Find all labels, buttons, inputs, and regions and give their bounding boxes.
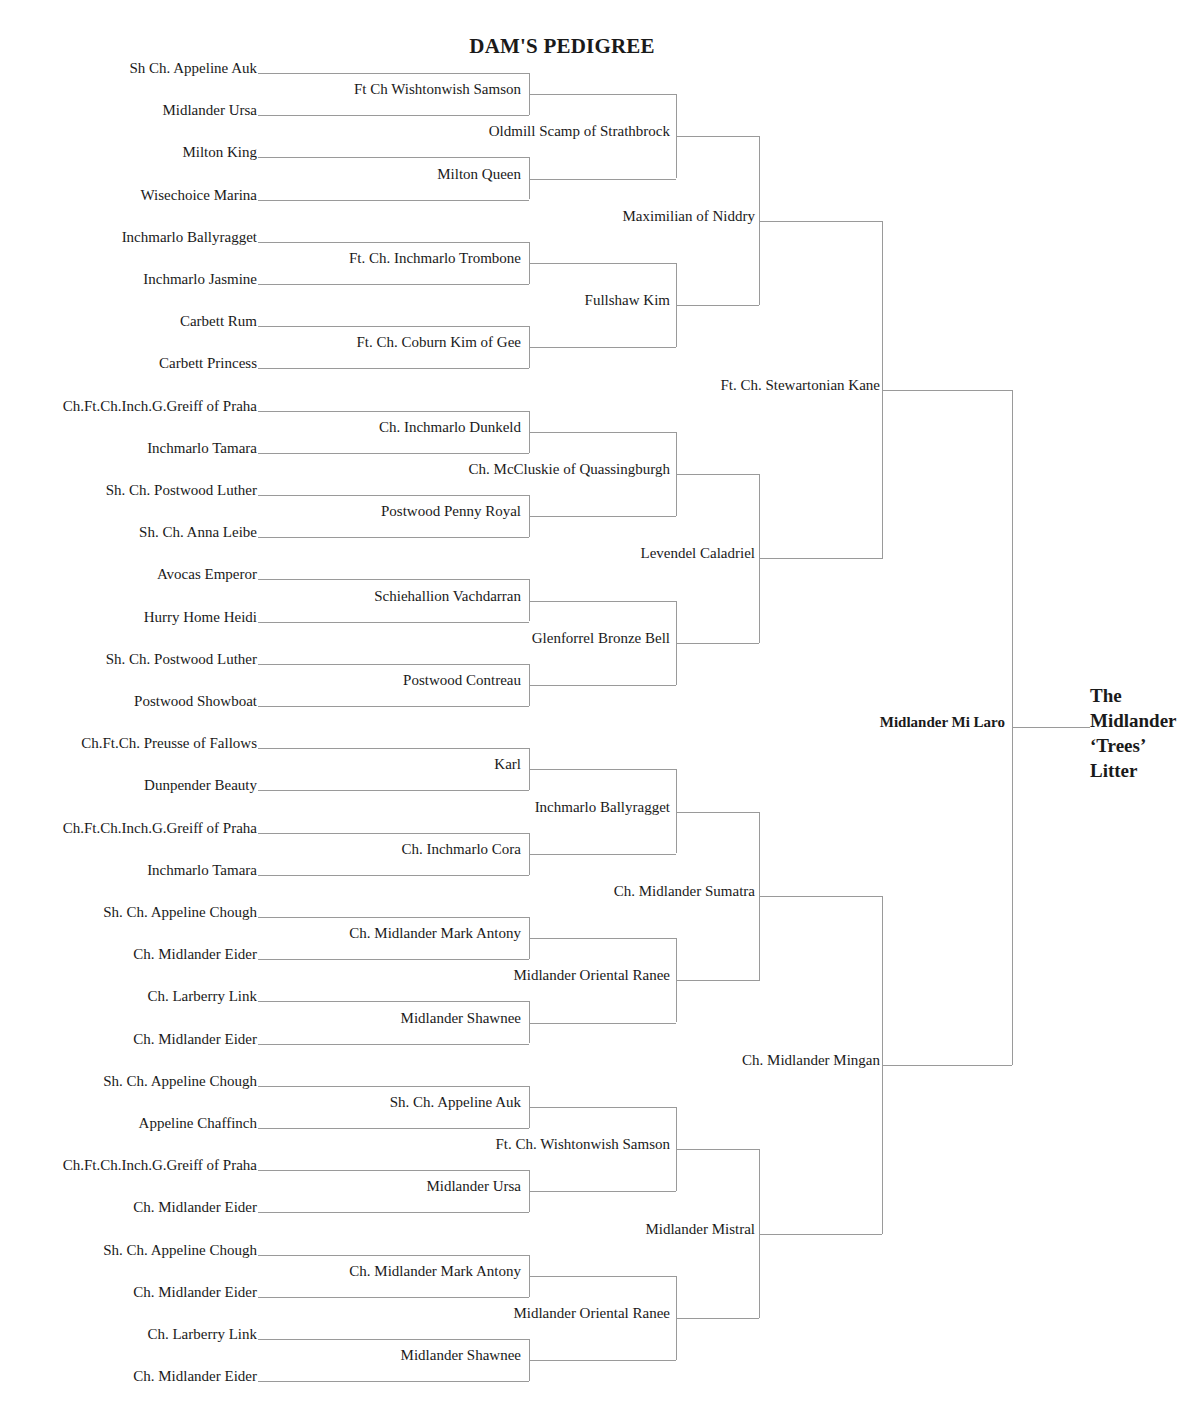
ancestor-gen5: Ch. Midlander Eider (133, 1283, 257, 1301)
ancestor-gen4: Ch. Inchmarlo Dunkeld (379, 418, 521, 436)
ancestor-gen4: Ch. Inchmarlo Cora (401, 840, 521, 858)
ancestor-gen1: Ft. Ch. Stewartonian Kane (720, 376, 880, 394)
ancestor-gen4: Postwood Penny Royal (381, 502, 521, 520)
ancestor-gen5: Sh Ch. Appeline Auk (129, 59, 257, 77)
ancestor-gen4: Midlander Shawnee (401, 1009, 521, 1027)
litter-title-line: ‘Trees’ (1090, 733, 1177, 758)
ancestor-gen4: Postwood Contreau (403, 671, 521, 689)
ancestor-gen4: Ch. Midlander Mark Antony (349, 924, 521, 942)
litter-title-line: The (1090, 683, 1177, 708)
connector-line (258, 453, 529, 454)
ancestor-gen4: Midlander Ursa (426, 1177, 521, 1195)
connector-line (676, 643, 759, 644)
ancestor-gen5: Postwood Showboat (134, 692, 257, 710)
connector-line (529, 1107, 676, 1108)
ancestor-gen5: Ch.Ft.Ch.Inch.G.Greiff of Praha (63, 397, 257, 415)
connector-line (759, 558, 882, 559)
ancestor-gen5: Milton King (182, 143, 257, 161)
ancestor-gen5: Inchmarlo Ballyragget (122, 228, 257, 246)
connector-line (258, 790, 529, 791)
connector-line (529, 1276, 676, 1277)
connector-line (759, 896, 882, 897)
connector-line (258, 917, 529, 918)
connector-line (529, 347, 676, 348)
connector-line (529, 94, 676, 95)
litter-title-line: Midlander (1090, 708, 1177, 733)
ancestor-gen5: Sh. Ch. Appeline Chough (103, 903, 257, 921)
connector-line (258, 495, 529, 496)
connector-line (529, 516, 676, 517)
ancestor-gen3: Fullshaw Kim (585, 291, 670, 309)
ancestor-gen3: Ch. McCluskie of Quassingburgh (469, 460, 670, 478)
connector-line (258, 1381, 529, 1382)
ancestor-gen5: Sh. Ch. Appeline Chough (103, 1241, 257, 1259)
connector-line (529, 179, 676, 180)
connector-line (676, 980, 759, 981)
ancestor-gen5: Ch. Midlander Eider (133, 1030, 257, 1048)
connector-line (258, 242, 529, 243)
connector-line (258, 1297, 529, 1298)
ancestor-gen4: Ft. Ch. Coburn Kim of Gee (356, 333, 521, 351)
connector-line (1012, 727, 1090, 728)
connector-line (759, 1234, 882, 1235)
connector-line (529, 1191, 676, 1192)
connector-line (258, 748, 529, 749)
ancestor-gen5: Dunpender Beauty (144, 776, 257, 794)
connector-line (258, 706, 529, 707)
connector-line (258, 326, 529, 327)
connector-line (529, 938, 676, 939)
connector-line (258, 1086, 529, 1087)
connector-line (258, 411, 529, 412)
ancestor-gen5: Ch. Midlander Eider (133, 945, 257, 963)
bracket-line (676, 769, 677, 853)
ancestor-gen5: Ch.Ft.Ch.Inch.G.Greiff of Praha (63, 819, 257, 837)
dam-name: Midlander Mi Laro (880, 713, 1005, 731)
connector-line (258, 1044, 529, 1045)
ancestor-gen5: Wisechoice Marina (141, 186, 257, 204)
ancestor-gen3: Ft. Ch. Wishtonwish Samson (495, 1135, 670, 1153)
connector-line (258, 115, 529, 116)
ancestor-gen2: Midlander Mistral (645, 1220, 755, 1238)
ancestor-gen5: Sh. Ch. Appeline Chough (103, 1072, 257, 1090)
connector-line (676, 136, 759, 137)
ancestor-gen5: Ch. Midlander Eider (133, 1367, 257, 1385)
connector-line (529, 1023, 676, 1024)
ancestor-gen5: Hurry Home Heidi (144, 608, 257, 626)
connector-line (529, 854, 676, 855)
connector-line (258, 368, 529, 369)
connector-line (676, 474, 759, 475)
ancestor-gen5: Inchmarlo Tamara (147, 861, 257, 879)
connector-line (676, 1318, 759, 1319)
ancestor-gen5: Midlander Ursa (162, 101, 257, 119)
bracket-line (529, 157, 530, 199)
litter-title-line: Litter (1090, 758, 1177, 783)
connector-line (258, 1128, 529, 1129)
connector-line (258, 1170, 529, 1171)
connector-line (258, 833, 529, 834)
connector-line (258, 73, 529, 74)
ancestor-gen5: Carbett Princess (159, 354, 257, 372)
ancestor-gen4: Ft Ch Wishtonwish Samson (354, 80, 521, 98)
bracket-line (529, 579, 530, 621)
ancestor-gen3: Midlander Oriental Ranee (513, 966, 670, 984)
ancestor-gen5: Ch.Ft.Ch.Inch.G.Greiff of Praha (63, 1156, 257, 1174)
bracket-line (529, 1001, 530, 1043)
connector-line (529, 685, 676, 686)
ancestor-gen3: Midlander Oriental Ranee (513, 1304, 670, 1322)
ancestor-gen5: Ch. Larberry Link (147, 1325, 257, 1343)
ancestor-gen5: Ch.Ft.Ch. Preusse of Fallows (81, 734, 257, 752)
ancestor-gen4: Milton Queen (437, 165, 521, 183)
ancestor-gen5: Sh. Ch. Postwood Luther (106, 481, 257, 499)
connector-line (529, 769, 676, 770)
connector-line (258, 1255, 529, 1256)
connector-line (258, 664, 529, 665)
ancestor-gen5: Sh. Ch. Postwood Luther (106, 650, 257, 668)
ancestor-gen4: Schiehallion Vachdarran (374, 587, 521, 605)
connector-line (258, 200, 529, 201)
ancestor-gen5: Carbett Rum (180, 312, 257, 330)
connector-line (676, 305, 759, 306)
ancestor-gen3: Inchmarlo Ballyragget (535, 798, 670, 816)
connector-line (529, 432, 676, 433)
ancestor-gen5: Appeline Chaffinch (139, 1114, 257, 1132)
connector-line (258, 579, 529, 580)
